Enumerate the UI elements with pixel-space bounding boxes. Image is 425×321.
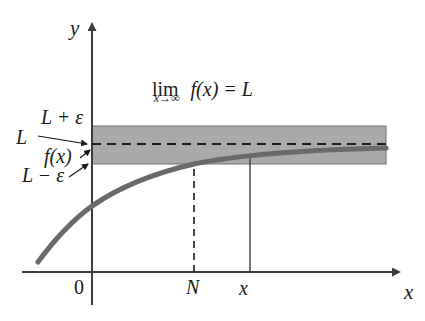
limit-body: f(x) = L	[191, 78, 253, 100]
function-curve	[38, 148, 386, 262]
upper-bound-label: L + ε	[41, 107, 83, 127]
origin-label: 0	[74, 277, 84, 297]
limit-diagram: y x 0 N x L + ε L f(x) L − ε lim x→∞ f(x…	[0, 0, 425, 321]
x-axis-label: x	[404, 282, 413, 303]
leader-arrow-fx	[80, 150, 90, 158]
lower-bound-label: L − ε	[22, 165, 64, 185]
leader-arrow-L	[38, 136, 87, 144]
x-tick-label-x: x	[239, 278, 248, 298]
y-axis-label: y	[70, 18, 79, 39]
x-tick-label-N: N	[186, 277, 199, 297]
limit-expression: lim x→∞ f(x) = L	[152, 79, 277, 99]
limit-value-label: L	[16, 127, 27, 147]
limit-subscript: x→∞	[154, 92, 180, 104]
function-label: f(x)	[44, 146, 72, 166]
